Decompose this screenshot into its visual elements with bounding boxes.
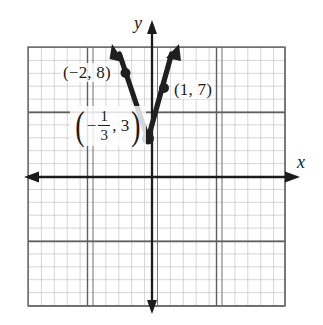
point-marker-neg2-8 (121, 68, 131, 78)
vertex-fraction: 1 3 (98, 108, 110, 144)
y-axis-arrow-up-icon (147, 20, 157, 34)
x-axis-arrow-right-icon (285, 172, 300, 183)
point-label-neg2-8: (−2, 8) (61, 63, 113, 82)
vertex-open-paren: ( (75, 110, 84, 142)
graph-screenshot: (−2, 8) (1, 7) ( − 1 3 , 3 ) y x (0, 0, 323, 325)
vertex-close-paren: ) (131, 110, 140, 142)
coordinate-graph (0, 0, 323, 325)
fraction-denominator: 3 (99, 127, 111, 143)
y-axis-arrow-down-icon (147, 300, 157, 314)
point-label-1-7: (1, 7) (172, 80, 214, 99)
vertex-y-value: , 3 (111, 117, 129, 134)
y-axis-label: y (134, 13, 142, 34)
x-axis-label: x (297, 152, 305, 173)
fraction-bar (98, 125, 110, 126)
point-marker-1-7 (159, 83, 169, 93)
vertex-minus-sign: − (87, 117, 98, 134)
fraction-numerator: 1 (99, 108, 111, 124)
point-label-vertex: ( − 1 3 , 3 ) (70, 106, 146, 146)
vertex-expression: − 1 3 , 3 (87, 108, 130, 144)
